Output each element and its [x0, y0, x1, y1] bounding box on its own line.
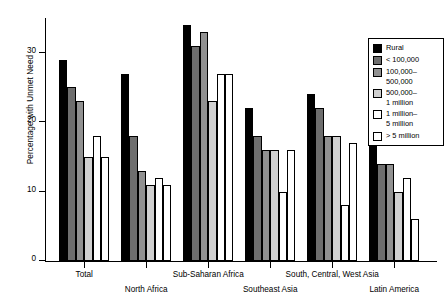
legend-label: 1 million– 5 million	[386, 109, 417, 128]
bar	[315, 108, 323, 261]
bar	[59, 60, 67, 261]
x-tick	[270, 262, 271, 268]
chart-legend: Rural< 100,000100,000– 500,000500,000– 1…	[368, 38, 444, 146]
y-tick: 30	[39, 52, 45, 53]
y-axis-title: Percentage with Unmet Need	[26, 10, 35, 210]
y-tick-label: 0	[31, 254, 36, 263]
bar-group	[307, 18, 357, 261]
bar	[386, 164, 394, 261]
bar	[93, 136, 101, 261]
y-axis-line	[45, 18, 46, 262]
bar-chart-figure: Percentage with Unmet Need 0102030 Total…	[0, 0, 447, 302]
bar	[262, 150, 270, 261]
x-tick	[394, 262, 395, 268]
y-tick: 20	[39, 121, 45, 122]
bar	[225, 74, 233, 261]
legend-swatch	[373, 56, 382, 65]
bar	[377, 164, 385, 261]
legend-entry: 500,000– 1 million	[373, 88, 440, 107]
y-tick-label: 20	[27, 115, 36, 124]
x-tick	[146, 262, 147, 268]
legend-label: > 5 million	[386, 131, 419, 141]
bar	[191, 46, 199, 261]
x-tick	[208, 262, 209, 268]
x-tick-label: North Africa	[125, 285, 168, 294]
bar	[245, 108, 253, 261]
bar	[163, 185, 171, 261]
bar	[324, 136, 332, 261]
legend-entry: 1 million– 5 million	[373, 109, 440, 128]
legend-label: Rural	[386, 43, 404, 53]
bar	[332, 136, 340, 261]
bar	[138, 171, 146, 261]
bar	[121, 74, 129, 261]
legend-entry: 100,000– 500,000	[373, 67, 440, 86]
legend-swatch	[373, 89, 382, 98]
legend-entry: > 5 million	[373, 131, 440, 141]
bar	[411, 219, 419, 261]
bar	[76, 101, 84, 261]
y-tick: 10	[39, 191, 45, 192]
bar	[253, 136, 261, 261]
bar	[155, 178, 163, 261]
bar	[129, 136, 137, 261]
bar	[270, 150, 278, 261]
bar	[101, 157, 109, 261]
x-tick-label: Southeast Asia	[243, 285, 298, 294]
legend-swatch	[373, 110, 382, 119]
legend-swatch	[373, 68, 382, 77]
bar-group	[183, 18, 233, 261]
legend-entry: < 100,000	[373, 55, 440, 65]
bar	[341, 205, 349, 261]
y-tick-label: 10	[27, 185, 36, 194]
x-axis-line	[45, 261, 437, 262]
legend-label: 100,000– 500,000	[386, 67, 417, 86]
bar-group	[59, 18, 109, 261]
legend-entry: Rural	[373, 43, 440, 53]
legend-swatch	[373, 132, 382, 141]
bar	[394, 192, 402, 261]
bar	[217, 74, 225, 261]
bar	[200, 32, 208, 261]
x-tick-label: South, Central, West Asia	[286, 270, 379, 279]
y-tick-label: 30	[27, 46, 36, 55]
bar-group	[121, 18, 171, 261]
x-tick-label: Total	[76, 270, 93, 279]
bar	[67, 87, 75, 261]
x-tick	[332, 262, 333, 268]
x-tick-label: Sub-Saharan Africa	[173, 270, 244, 279]
x-tick	[84, 262, 85, 268]
bar	[84, 157, 92, 261]
y-tick: 0	[39, 260, 45, 261]
x-tick-label: Latin America	[369, 285, 419, 294]
bar-group	[245, 18, 295, 261]
bar	[146, 185, 154, 261]
bar	[349, 143, 357, 261]
bar	[307, 94, 315, 261]
legend-swatch	[373, 44, 382, 53]
legend-label: < 100,000	[386, 55, 419, 65]
legend-label: 500,000– 1 million	[386, 88, 417, 107]
bar	[279, 192, 287, 261]
bar	[287, 150, 295, 261]
bar	[403, 178, 411, 261]
bar	[208, 101, 216, 261]
bar	[183, 25, 191, 261]
